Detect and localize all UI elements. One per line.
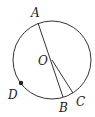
point-D-dot [19, 81, 23, 85]
segment-OC [52, 60, 73, 93]
label-A: A [30, 6, 40, 20]
label-D: D [7, 88, 18, 102]
label-B: B [58, 101, 68, 115]
circle-diagram: A O D B C [0, 0, 95, 117]
label-O: O [38, 54, 48, 68]
label-C: C [76, 95, 85, 109]
